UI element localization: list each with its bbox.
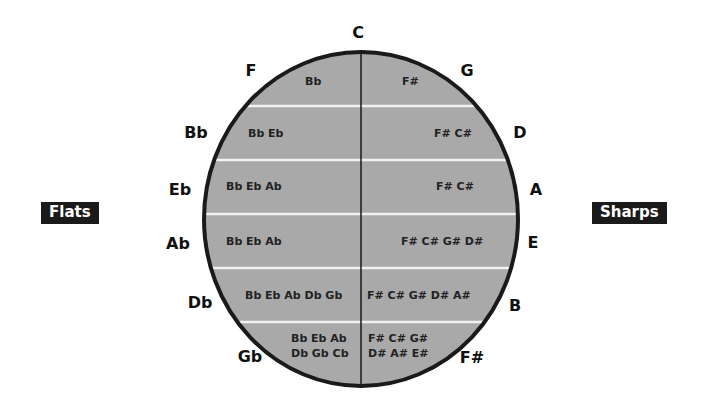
row6-sharps-line1: F# C# G# (368, 333, 428, 344)
key-f: F (246, 63, 257, 79)
key-g-flat: Gb (238, 349, 263, 365)
row4-sharps: F# C# G# D# (401, 236, 483, 247)
row5-sharps: F# C# G# D# A# (367, 290, 471, 301)
key-g: G (460, 63, 473, 79)
row5-flats: Bb Eb Ab Db Gb (245, 290, 342, 301)
row6-sharps-line2: D# A# E# (368, 348, 428, 359)
row6-flats-line2: Db Gb Cb (291, 348, 349, 359)
row2-sharps: F# C# (434, 128, 472, 139)
row3-sharps: F# C# (436, 181, 474, 192)
key-a-flat: Ab (166, 236, 190, 252)
row6-flats-line1: Bb Eb Ab (291, 333, 347, 344)
row2-flats: Bb Eb (248, 128, 283, 139)
key-d-flat: Db (188, 295, 213, 311)
key-b-flat: Bb (184, 125, 208, 141)
row1-sharps: F# (402, 76, 419, 87)
key-a: A (530, 182, 542, 198)
row4-flats: Bb Eb Ab (226, 236, 282, 247)
key-d: D (513, 125, 526, 141)
key-c: C (352, 25, 364, 41)
row1-flats: Bb (305, 76, 321, 87)
key-f-sharp: F# (460, 350, 484, 366)
key-b: B (509, 298, 521, 314)
key-e: E (528, 235, 539, 251)
key-e-flat: Eb (169, 182, 191, 198)
flats-badge: Flats (41, 202, 99, 224)
sharps-badge: Sharps (592, 202, 667, 224)
row3-flats: Bb Eb Ab (226, 181, 282, 192)
